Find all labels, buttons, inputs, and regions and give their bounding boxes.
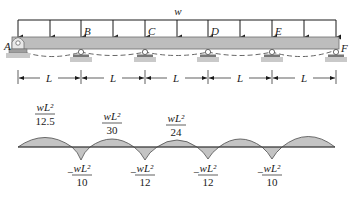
- support-d-roller: [197, 49, 219, 62]
- negative-moment-label-2: − wL² 12: [130, 162, 155, 188]
- span-label-de: L: [236, 72, 243, 84]
- negative-moment-label-1: − wL² 10: [67, 162, 92, 188]
- support-e-roller: [261, 49, 283, 62]
- span-label-ab: L: [45, 72, 52, 84]
- negative-moment-b: [72, 147, 90, 160]
- svg-text:−: −: [67, 166, 73, 178]
- support-label-e: E: [274, 25, 282, 37]
- positive-moment-cd: [157, 140, 197, 147]
- positive-moment-label-3: wL² 24: [166, 112, 186, 138]
- support-label-c: C: [148, 25, 156, 37]
- negative-moment-c: [134, 147, 157, 160]
- support-b-roller: [70, 49, 92, 62]
- positive-moment-ab: [18, 138, 72, 148]
- svg-text:12.5: 12.5: [35, 115, 55, 127]
- positive-moment-ef: [282, 137, 335, 148]
- svg-text:30: 30: [107, 124, 119, 136]
- beam: [12, 37, 339, 49]
- positive-moment-bc: [90, 139, 134, 147]
- support-c-roller: [134, 49, 156, 62]
- distributed-load: w: [18, 5, 336, 37]
- load-label: w: [174, 5, 182, 17]
- negative-moment-d: [197, 147, 219, 159]
- support-label-b: B: [84, 25, 91, 37]
- svg-text:wL²: wL²: [200, 162, 217, 174]
- continuous-beam-diagram: w A B C D E F: [0, 0, 362, 203]
- positive-moment-label-2: wL² 30: [102, 110, 122, 136]
- span-label-bc: L: [109, 72, 116, 84]
- positive-moment-de: [219, 139, 262, 147]
- bending-moment-diagram: [18, 137, 335, 161]
- svg-text:−: −: [130, 166, 136, 178]
- svg-text:24: 24: [171, 126, 183, 138]
- svg-text:wL²: wL²: [137, 162, 154, 174]
- svg-text:10: 10: [77, 176, 89, 188]
- negative-moment-label-3: − wL² 12: [193, 162, 218, 188]
- svg-text:10: 10: [267, 176, 279, 188]
- svg-text:12: 12: [203, 176, 214, 188]
- load-arrows: [18, 20, 336, 37]
- negative-moment-e: [262, 147, 282, 159]
- span-dimensions: L L L L L: [18, 70, 336, 84]
- svg-text:−: −: [193, 166, 199, 178]
- support-label-f: F: [340, 42, 348, 54]
- svg-text:−: −: [257, 166, 263, 178]
- svg-text:wL²: wL²: [168, 112, 185, 124]
- svg-text:wL²: wL²: [104, 110, 121, 122]
- support-label-a: A: [3, 40, 11, 52]
- span-label-ef: L: [300, 72, 307, 84]
- negative-moment-label-4: − wL² 10: [257, 162, 282, 188]
- svg-text:wL²: wL²: [37, 101, 54, 113]
- svg-text:wL²: wL²: [264, 162, 281, 174]
- deflected-shape: [18, 50, 336, 57]
- support-label-d: D: [210, 25, 219, 37]
- span-label-cd: L: [172, 72, 179, 84]
- svg-text:12: 12: [140, 176, 151, 188]
- svg-text:wL²: wL²: [74, 162, 91, 174]
- positive-moment-label-1: wL² 12.5: [35, 101, 55, 127]
